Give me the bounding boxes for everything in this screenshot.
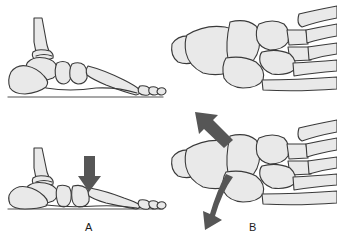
cuboid-bone-dorsal: [223, 57, 264, 88]
metatarsal-5-bone-b: [262, 191, 337, 205]
cuneiform-bone-a: [72, 185, 90, 207]
figure-root: A B: [0, 0, 337, 244]
metatarsal-2-bone-b: [306, 138, 337, 157]
metatarsal-1-bone-b: [298, 120, 337, 141]
lateral-cuneiform-bone: [256, 21, 289, 50]
panel-top-right: [172, 6, 337, 91]
foot-anatomy-illustration: [0, 0, 337, 244]
metatarsal-bone: [86, 66, 140, 95]
metatarsal-2-bone: [306, 24, 337, 43]
intermediate-cuneiform-bone-b: [287, 144, 308, 159]
metatarsal-4-bone-b: [293, 174, 337, 190]
distal-phalanx-bone: [157, 88, 166, 95]
metatarsal-5-bone: [262, 77, 337, 91]
panel-bottom-left: [8, 148, 166, 209]
intermediate-cuneiform-bone: [287, 30, 308, 45]
tarsal-joint-bone: [260, 50, 296, 74]
panel-top-left: [8, 18, 166, 97]
panel-label-b: B: [249, 222, 257, 233]
tarsal-joint-bone-b: [260, 164, 296, 188]
metatarsal-3-bone-b: [308, 157, 337, 174]
metatarsal-1-bone: [298, 6, 337, 27]
cuneiform-bone: [70, 63, 87, 84]
lateral-cuneiform-bone-b: [256, 135, 289, 164]
metatarsal-4-bone: [293, 60, 337, 76]
metatarsal-3-bone: [308, 43, 337, 60]
distal-phalanx-bone-a: [157, 202, 166, 209]
navicular-bone: [55, 62, 71, 85]
panel-label-a: A: [85, 222, 93, 233]
navicular-bone-a: [56, 185, 71, 207]
panel-bottom-right: [172, 112, 337, 230]
